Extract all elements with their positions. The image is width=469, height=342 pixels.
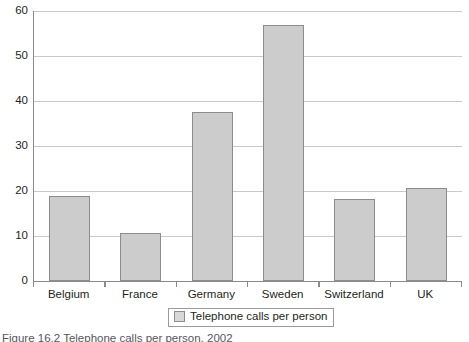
bar-chart-figure: 0102030405060 BelgiumFranceGermanySweden…: [0, 0, 469, 342]
legend: Telephone calls per person: [168, 308, 334, 327]
y-axis-tick-label: 50: [15, 50, 28, 62]
x-axis-category-label: Sweden: [247, 288, 318, 301]
x-axis-category-label: France: [104, 288, 175, 301]
x-axis-ticks: [33, 281, 461, 287]
y-axis-tick-label: 20: [15, 185, 28, 197]
bar-slot: [177, 11, 248, 281]
bar-slot: [319, 11, 390, 281]
bar: [406, 188, 447, 281]
x-axis-tick: [390, 281, 391, 287]
x-axis-tick: [247, 281, 248, 287]
bar-slot: [391, 11, 462, 281]
y-axis-tick-label: 30: [15, 140, 28, 152]
bars-group: [34, 11, 462, 281]
x-axis-category-labels: BelgiumFranceGermanySwedenSwitzerlandUK: [33, 288, 461, 301]
x-axis-category-label: Belgium: [33, 288, 104, 301]
bar-slot: [248, 11, 319, 281]
y-axis-tick-label: 60: [15, 5, 28, 17]
x-axis-tick: [104, 281, 105, 287]
bar: [263, 25, 304, 281]
x-axis-category-label: Germany: [176, 288, 247, 301]
y-axis-tick-label: 0: [22, 275, 28, 287]
bar: [334, 199, 375, 281]
figure-caption: Figure 16.2 Telephone calls per person, …: [2, 332, 467, 342]
x-axis-category-label: Switzerland: [318, 288, 389, 301]
y-axis-tick-label: 10: [15, 230, 28, 242]
bar-slot: [34, 11, 105, 281]
x-axis-tick: [176, 281, 177, 287]
x-axis-tick: [33, 281, 34, 287]
bar-slot: [105, 11, 176, 281]
bar: [192, 112, 233, 281]
bar: [120, 233, 161, 281]
legend-label: Telephone calls per person: [190, 311, 327, 323]
x-axis-category-label: UK: [390, 288, 461, 301]
legend-swatch-icon: [174, 311, 185, 322]
bar: [49, 196, 90, 282]
x-axis-tick: [461, 281, 462, 287]
y-axis-tick-label: 40: [15, 95, 28, 107]
plot-area: 0102030405060: [33, 11, 462, 282]
x-axis-tick: [318, 281, 319, 287]
